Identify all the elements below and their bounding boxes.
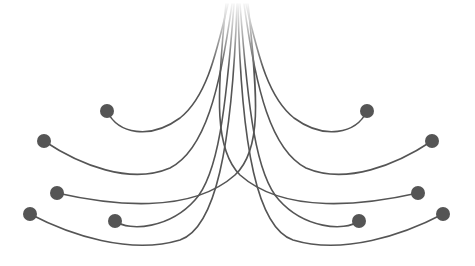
node-dot-left-0 [100,104,114,118]
node-dot-right-5 [360,104,374,118]
curves-svg [0,0,475,266]
node-dot-left-2 [50,186,64,200]
node-dot-left-1 [37,134,51,148]
node-dot-right-8 [436,207,450,221]
dot-group [23,104,450,228]
node-dot-left-4 [108,214,122,228]
fan-diagram [0,0,475,266]
node-dot-right-7 [411,186,425,200]
node-dot-right-9 [352,214,366,228]
top-fade-overlay [0,0,475,80]
node-dot-left-3 [23,207,37,221]
node-dot-right-6 [425,134,439,148]
